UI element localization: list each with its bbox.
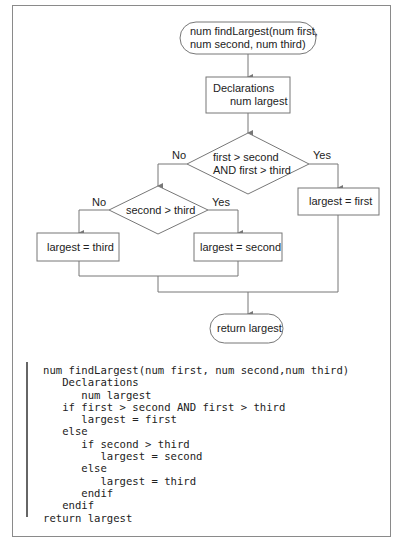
- code-line: else: [43, 425, 349, 437]
- code-line: if first > second AND first > third: [43, 401, 349, 413]
- code-margin-bar: [26, 362, 28, 517]
- code-line: largest = second: [43, 450, 349, 462]
- process-third-text: largest = third: [47, 241, 114, 253]
- decision1-yes-label: Yes: [313, 149, 331, 161]
- code-line: largest = third: [43, 475, 349, 487]
- decision1-line2: AND first > third: [213, 164, 291, 176]
- code-line: largest = first: [43, 413, 349, 425]
- code-line: endif: [43, 499, 349, 511]
- decision2-text: second > third: [126, 204, 195, 216]
- decision2-no-label: No: [92, 196, 106, 208]
- code-line: else: [43, 462, 349, 474]
- code-line: return largest: [43, 512, 349, 524]
- decision1-no-label: No: [172, 149, 186, 161]
- end-terminal-text: return largest: [217, 322, 282, 334]
- process-first-text: largest = first: [309, 195, 372, 207]
- decision1-line1: first > second: [213, 151, 279, 163]
- process-second-text: largest = second: [200, 241, 281, 253]
- start-terminal-line1: num findLargest(num first,: [190, 25, 318, 37]
- start-terminal-line2: num second, num third): [190, 38, 306, 50]
- code-line: endif: [43, 487, 349, 499]
- declarations-line2: num largest: [230, 95, 287, 107]
- code-line: num largest: [43, 389, 349, 401]
- pseudocode-block: num findLargest(num first, num second,nu…: [43, 364, 349, 524]
- decision2-yes-label: Yes: [212, 196, 230, 208]
- code-line: Declarations: [43, 376, 349, 388]
- declarations-line1: Declarations: [213, 82, 275, 94]
- code-line: if second > third: [43, 438, 349, 450]
- code-line: num findLargest(num first, num second,nu…: [43, 364, 349, 376]
